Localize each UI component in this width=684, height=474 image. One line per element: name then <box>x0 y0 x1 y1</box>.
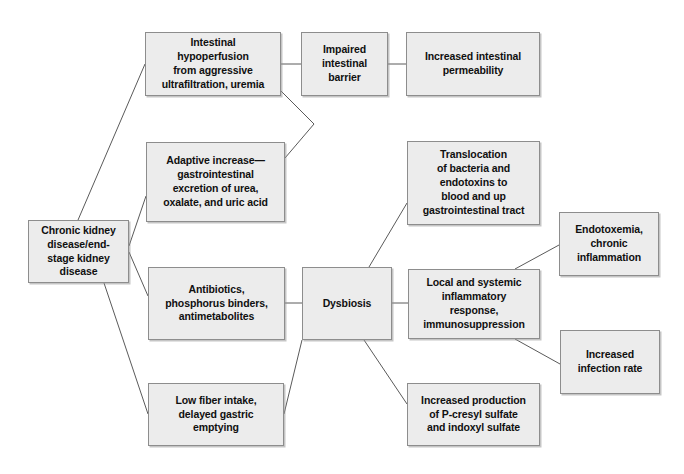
node-label-low-fiber: Low fiber intake, delayed gastric emptyi… <box>175 394 256 436</box>
edge-inflammatory-response-to-endotoxemia <box>515 245 559 269</box>
node-inflammatory-response: Local and systemic inflammatory response… <box>408 269 540 339</box>
edge-ckd-to-adaptive-increase <box>129 196 146 246</box>
node-impaired-barrier: Impaired intestinal barrier <box>301 32 388 96</box>
node-permeability: Increased intestinal permeability <box>406 32 540 96</box>
node-dysbiosis: Dysbiosis <box>302 267 392 340</box>
node-label-infection-rate: Increased infection rate <box>578 348 643 376</box>
node-label-impaired-barrier: Impaired intestinal barrier <box>322 43 367 85</box>
node-label-hypoperfusion: Intestinal hypoperfusion from aggressive… <box>162 36 265 91</box>
node-ckd: Chronic kidney disease/end- stage kidney… <box>28 220 129 283</box>
flowchart-diagram: Chronic kidney disease/end- stage kidney… <box>0 0 684 474</box>
node-label-dysbiosis: Dysbiosis <box>323 297 372 311</box>
node-sulfates: Increased production of P-cresyl sulfate… <box>407 383 540 446</box>
edge-low-fiber-to-dysbiosis <box>284 340 302 414</box>
node-low-fiber: Low fiber intake, delayed gastric emptyi… <box>148 383 284 446</box>
node-antibiotics: Antibiotics, phosphorus binders, antimet… <box>148 267 285 340</box>
node-endotoxemia: Endotoxemia, chronic inflammation <box>559 212 659 276</box>
node-adaptive-increase: Adaptive increase— gastrointestinal excr… <box>146 142 285 222</box>
node-infection-rate: Increased infection rate <box>560 330 660 394</box>
edge-inflammatory-response-to-infection-rate <box>515 339 560 364</box>
edge-adaptive-increase-to-merge-vertex <box>285 124 314 158</box>
edge-dysbiosis-to-sulfates <box>364 340 407 404</box>
edge-ckd-to-antibiotics <box>129 252 148 296</box>
node-label-adaptive-increase: Adaptive increase— gastrointestinal excr… <box>163 154 268 209</box>
edge-dysbiosis-to-translocation <box>369 203 407 267</box>
node-label-permeability: Increased intestinal permeability <box>425 50 521 78</box>
node-translocation: Translocation of bacteria and endotoxins… <box>407 141 540 225</box>
node-label-ckd: Chronic kidney disease/end- stage kidney… <box>41 224 115 279</box>
node-label-endotoxemia: Endotoxemia, chronic inflammation <box>575 223 643 265</box>
edge-ckd-to-low-fiber <box>104 283 148 414</box>
node-label-antibiotics: Antibiotics, phosphorus binders, antimet… <box>165 283 268 325</box>
node-label-sulfates: Increased production of P-cresyl sulfate… <box>421 394 526 436</box>
node-hypoperfusion: Intestinal hypoperfusion from aggressive… <box>145 32 281 96</box>
node-label-inflammatory-response: Local and systemic inflammatory response… <box>423 276 525 331</box>
node-label-translocation: Translocation of bacteria and endotoxins… <box>423 148 525 217</box>
edge-ckd-to-hypoperfusion <box>78 64 145 220</box>
